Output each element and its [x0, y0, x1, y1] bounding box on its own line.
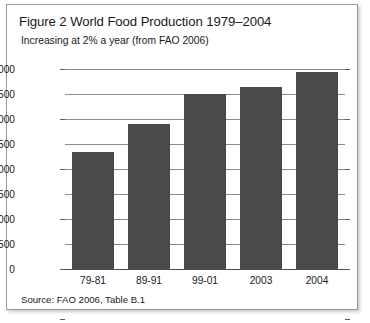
y-axis-tick [60, 269, 65, 270]
y-axis-tick [60, 219, 65, 220]
x-axis-tick-label: 99-01 [177, 275, 233, 286]
y-axis-tick-label: 1000 [0, 214, 15, 225]
gridline [65, 69, 345, 70]
bar [128, 124, 171, 269]
y-axis-tick-label: 3000 [0, 114, 15, 125]
y-axis-tick-right [345, 269, 350, 270]
plot-area [65, 69, 345, 269]
y-axis-tick-label: 1500 [0, 189, 15, 200]
bar [184, 94, 227, 269]
x-axis-tick-label: 2003 [233, 275, 289, 286]
y-axis-tick-right [345, 319, 350, 320]
source-note: Source: FAO 2006, Table B.1 [21, 294, 145, 305]
y-axis-tick [60, 69, 65, 70]
x-axis-tick-label: 89-91 [121, 275, 177, 286]
x-axis-tick-label: 2004 [289, 275, 345, 286]
y-axis-tick [60, 169, 65, 170]
bar-chart: Million metric tons of grain, veg., and … [7, 5, 359, 311]
y-axis-tick-right [345, 119, 350, 120]
y-axis-tick-label: 4000 [0, 64, 15, 75]
y-axis-tick-right [345, 69, 350, 70]
bar [296, 72, 339, 270]
y-axis-tick-label: 2000 [0, 164, 15, 175]
y-axis-tick-label: 500 [0, 239, 15, 250]
x-axis-tick-label: 79-81 [65, 275, 121, 286]
y-axis-tick-label: 2500 [0, 139, 15, 150]
bar [72, 152, 115, 270]
figure-card: Figure 2 World Food Production 1979–2004… [6, 4, 358, 310]
y-axis-tick-label: 3500 [0, 89, 15, 100]
bar [240, 87, 283, 270]
y-axis-tick-label: 0 [9, 264, 15, 275]
y-axis-tick [60, 319, 65, 320]
y-axis-tick-right [345, 169, 350, 170]
gridline [65, 269, 345, 270]
y-axis-tick-right [345, 219, 350, 220]
y-axis-tick [60, 119, 65, 120]
